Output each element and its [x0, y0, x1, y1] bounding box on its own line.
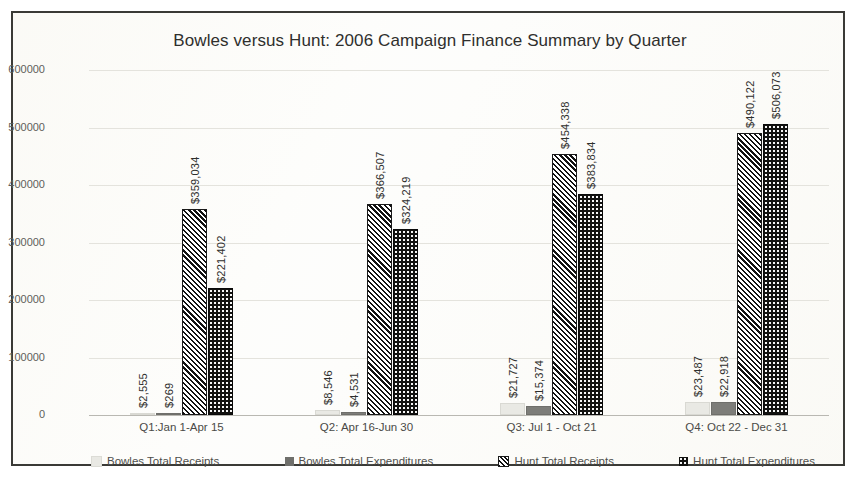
bar-fill [526, 406, 551, 415]
legend-swatch-icon [91, 456, 102, 467]
bar-bowles-expenditures[interactable]: $22,918 [711, 402, 736, 415]
bar-fill [685, 402, 710, 416]
plot-area: 0100000200000300000400000500000600000$2,… [89, 70, 829, 415]
bar-value-label: $221,402 [215, 235, 227, 282]
y-axis-tick-label: 600000 [0, 63, 45, 75]
bar-value-label: $366,507 [374, 152, 386, 199]
bar-hunt-receipts[interactable]: $490,122 [737, 133, 762, 415]
bar-value-label: $21,727 [507, 356, 519, 397]
bar-value-label: $324,219 [400, 176, 412, 223]
y-axis-tick-label: 500000 [0, 121, 45, 133]
bar-value-label: $454,338 [559, 101, 571, 148]
chart-title: Bowles versus Hunt: 2006 Campaign Financ… [13, 31, 847, 51]
y-axis-tick-label: 300000 [0, 236, 45, 248]
bar-value-label: $2,555 [137, 373, 149, 408]
bar-bowles-expenditures[interactable]: $15,374 [526, 406, 551, 415]
bar-group: $8,546$4,531$366,507$324,219 [274, 70, 459, 415]
bar-hunt-receipts[interactable]: $454,338 [552, 154, 577, 415]
bar-fill [552, 154, 577, 415]
legend-item-label: Bowles Total Expenditures [299, 455, 434, 467]
bar-value-label: $383,834 [585, 142, 597, 189]
bar-fill [367, 204, 392, 415]
bar-group: $2,555$269$359,034$221,402 [89, 70, 274, 415]
bar-value-label: $506,073 [770, 72, 782, 119]
bar-value-label: $23,487 [692, 355, 704, 396]
bar-hunt-receipts[interactable]: $359,034 [182, 209, 207, 415]
bar-fill [130, 413, 155, 415]
legend-item-label: Hunt Total Expenditures [693, 455, 815, 467]
bar-hunt-expenditures[interactable]: $221,402 [208, 288, 233, 415]
bar-fill [393, 229, 418, 415]
y-axis-tick-label: 0 [0, 408, 45, 420]
bar-value-label: $359,034 [189, 156, 201, 203]
bar-fill [763, 124, 788, 415]
x-axis-category-label: Q1:Jan 1-Apr 15 [139, 421, 223, 433]
legend-item-bowles-expenditures[interactable]: Bowles Total Expenditures [285, 455, 434, 467]
bar-fill [182, 209, 207, 415]
bar-group: $23,487$22,918$490,122$506,073 [644, 70, 829, 415]
y-axis-tick-label: 200000 [0, 293, 45, 305]
bar-bowles-receipts[interactable]: $21,727 [500, 403, 525, 415]
bar-hunt-expenditures[interactable]: $506,073 [763, 124, 788, 415]
legend-item-bowles-receipts[interactable]: Bowles Total Receipts [91, 455, 219, 467]
bar-value-label: $8,546 [322, 370, 334, 405]
bar-bowles-expenditures[interactable]: $269 [156, 413, 181, 415]
legend-item-hunt-expenditures[interactable]: Hunt Total Expenditures [679, 455, 815, 467]
x-axis-category-label: Q3: Jul 1 - Oct 21 [506, 421, 596, 433]
bar-hunt-receipts[interactable]: $366,507 [367, 204, 392, 415]
bar-bowles-expenditures[interactable]: $4,531 [341, 412, 366, 415]
bar-fill [156, 413, 181, 415]
bar-value-label: $15,374 [533, 360, 545, 401]
bar-hunt-expenditures[interactable]: $324,219 [393, 229, 418, 415]
legend-swatch-icon [285, 457, 294, 466]
bar-group: $21,727$15,374$454,338$383,834 [459, 70, 644, 415]
bar-value-label: $22,918 [718, 356, 730, 397]
bar-fill [737, 133, 762, 415]
chart-frame: Bowles versus Hunt: 2006 Campaign Financ… [11, 11, 845, 466]
bar-hunt-expenditures[interactable]: $383,834 [578, 194, 603, 415]
legend-item-label: Bowles Total Receipts [107, 455, 219, 467]
bar-value-label: $490,122 [744, 81, 756, 128]
bar-bowles-receipts[interactable]: $8,546 [315, 410, 340, 415]
bar-value-label: $4,531 [348, 373, 360, 408]
x-axis: Q1:Jan 1-Apr 15Q2: Apr 16-Jun 30Q3: Jul … [89, 421, 829, 441]
x-axis-category-label: Q4: Oct 22 - Dec 31 [685, 421, 787, 433]
bar-fill [208, 288, 233, 415]
legend-item-label: Hunt Total Receipts [514, 455, 614, 467]
bar-fill [341, 412, 366, 415]
y-gridline [89, 415, 829, 416]
y-axis-tick-label: 100000 [0, 351, 45, 363]
bar-bowles-receipts[interactable]: $2,555 [130, 413, 155, 415]
x-axis-category-label: Q2: Apr 16-Jun 30 [320, 421, 413, 433]
bar-value-label: $269 [163, 383, 175, 408]
bar-fill [315, 410, 340, 415]
bar-fill [578, 194, 603, 415]
legend-item-hunt-receipts[interactable]: Hunt Total Receipts [498, 455, 614, 467]
bar-fill [711, 402, 736, 415]
bar-bowles-receipts[interactable]: $23,487 [685, 402, 710, 416]
legend-swatch-icon [498, 456, 509, 467]
bar-fill [500, 403, 525, 415]
legend-swatch-icon [679, 457, 688, 466]
chart-legend: Bowles Total ReceiptsBowles Total Expend… [73, 450, 833, 472]
y-axis-tick-label: 400000 [0, 178, 45, 190]
